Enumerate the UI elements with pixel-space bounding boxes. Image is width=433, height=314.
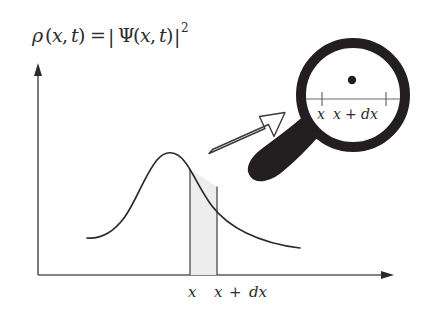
formula-rho: ρ — [31, 24, 44, 46]
formula-paren-close-2: ) — [166, 24, 174, 46]
title-formula: ρ ( x , t ) = | Ψ ( x , t ) | 2 — [31, 21, 189, 48]
figure-canvas: ρ ( x , t ) = | Ψ ( x , t ) | 2 — [0, 0, 433, 314]
y-axis-arrowhead — [34, 63, 42, 76]
axis-label-dx: dx — [249, 283, 268, 301]
dx-strip-fill — [190, 170, 217, 276]
magnifying-glass: x x + dx — [249, 43, 410, 180]
formula-bar-left: | — [108, 25, 115, 48]
axis-label-x: x — [188, 283, 197, 301]
formula-exponent: 2 — [181, 21, 189, 35]
axis-label-plus: + — [229, 283, 242, 301]
axis-label-x-2: x — [214, 283, 223, 301]
lens-label-dx: dx — [361, 106, 378, 122]
formula-paren-close: ) — [78, 24, 86, 46]
formula-comma-2: , — [150, 24, 156, 46]
lens-label-x-2: x — [333, 106, 341, 122]
lens-label-x: x — [317, 106, 325, 122]
lens-label-plus: + — [345, 106, 357, 122]
x-axis-annotations: x x + dx — [188, 283, 268, 301]
dx-strip — [190, 170, 217, 276]
particle-dot — [348, 76, 356, 84]
x-axis-arrowhead — [381, 271, 394, 279]
formula-bar-right: | — [174, 25, 181, 48]
quantum-probability-density-figure: ρ ( x , t ) = | Ψ ( x , t ) | 2 — [0, 0, 433, 314]
formula-equals: = — [90, 24, 106, 46]
formula-comma-1: , — [62, 24, 68, 46]
